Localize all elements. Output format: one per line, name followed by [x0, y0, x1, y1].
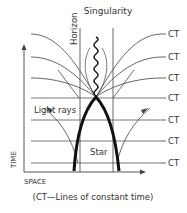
black-hole-spacetime-diagram: Singularity Horizon Light rays Star TIME… [0, 0, 187, 213]
singularity-wave [94, 37, 98, 96]
space-axis-label: SPACE [24, 178, 46, 186]
ct-label-4: CT [168, 93, 180, 103]
light-rays-label: Light rays [34, 105, 77, 115]
ct-label-5: CT [168, 115, 180, 125]
space-axis-arrow-icon [140, 170, 146, 175]
horizon-label: Horizon [69, 13, 79, 46]
ct-label-3: CT [168, 73, 180, 83]
ct-line-1-right [96, 34, 162, 97]
ct-label-2: CT [168, 52, 180, 62]
ct-label-6: CT [168, 136, 180, 146]
ct-line-1-left [31, 34, 96, 97]
light-ray-upper-left [58, 70, 79, 98]
time-axis-label: TIME [10, 151, 18, 169]
light-ray-upper-right [113, 70, 134, 98]
caption: (CT—Lines of constant time) [33, 192, 154, 202]
time-axis-arrow-icon [22, 44, 27, 50]
singularity-label: Singularity [84, 6, 133, 16]
star-label: Star [90, 147, 108, 157]
ct-label-1: CT [168, 29, 180, 39]
light-ray-left [44, 108, 78, 163]
light-ray-right [117, 108, 150, 163]
ct-labels: CT CT CT CT CT CT CT [162, 29, 180, 168]
star-worldline [74, 97, 119, 171]
ct-label-7: CT [168, 158, 180, 168]
